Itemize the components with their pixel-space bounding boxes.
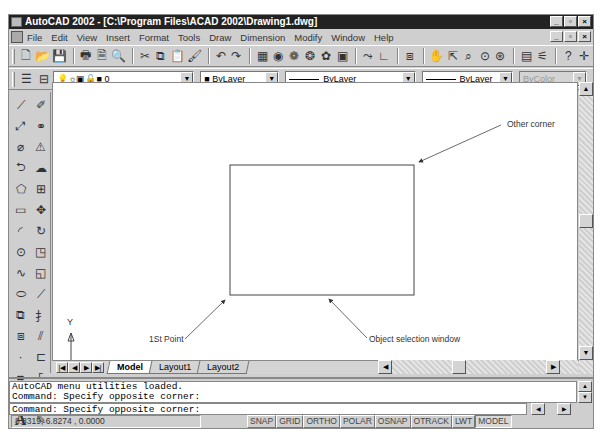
crosshair-icon[interactable]: ✛ [577,48,591,65]
array-icon[interactable]: ⊞ [32,180,49,198]
copy-icon[interactable]: ⧉ [154,48,168,65]
trim-icon[interactable]: ⺘ [32,306,49,324]
polar-toggle[interactable]: POLAR [340,415,375,428]
today-icon[interactable]: ◉ [271,48,285,65]
scroll-right-arrow-icon[interactable]: ▶ [546,360,560,374]
redraw-icon[interactable]: ∟ [377,48,391,65]
new-icon[interactable]: 🗋 [19,48,33,65]
aerial-view-icon[interactable]: ⧈ [403,48,417,65]
osnap-toggle[interactable]: OSNAP [375,415,411,428]
match-properties-icon[interactable]: 🖌 [187,48,202,65]
otrack-toggle[interactable]: OTRACK [411,415,452,428]
menu-view[interactable]: View [77,32,97,43]
lwt-toggle[interactable]: LWT [452,415,475,428]
snap-toggle[interactable]: SNAP [247,415,276,428]
stretch-icon[interactable]: ◱ [32,264,49,282]
lengthen-icon[interactable]: ⟋ [32,285,49,303]
erase-icon[interactable]: ✐ [32,96,49,114]
scale-icon[interactable]: ◳ [32,243,49,261]
save-icon[interactable]: 💾 [52,48,67,65]
design-center-icon[interactable]: ▦ [255,48,269,65]
open-icon[interactable]: 📂 [35,48,50,65]
ucs-icon[interactable]: ⤳ [361,48,375,65]
first-tab-icon[interactable]: |◀ [56,362,68,373]
scroll-up-arrow-icon[interactable]: ▲ [579,82,593,96]
ortho-toggle[interactable]: ORTHO [303,415,340,428]
doc-minimize-button[interactable]: _ [550,31,563,42]
redo-icon[interactable]: ↷ [230,48,244,65]
menu-window[interactable]: Window [331,32,365,43]
layer-manager-icon[interactable]: ☰ [19,71,34,88]
circle-icon[interactable]: ⊙ [12,243,29,261]
find-icon[interactable]: 🔍 [111,48,126,65]
make-layer-current-icon[interactable]: ⊟ [36,71,51,88]
coordinates-display[interactable]: 8.8319, 6.8274 , 0.0000 [11,415,201,428]
tab-model[interactable]: Model [107,361,154,374]
paste-icon[interactable]: 📋 [170,48,185,65]
close-button[interactable]: × [578,16,591,27]
zoom-window-icon[interactable]: ⌕ [462,48,476,65]
undo-icon[interactable]: ↶ [214,48,228,65]
menu-dimension[interactable]: Dimension [240,32,285,43]
menu-help[interactable]: Help [374,32,394,43]
rotate-icon[interactable]: ↻ [32,222,49,240]
polygon-icon[interactable]: ⮌ [12,159,29,177]
tab-layout2[interactable]: Layout2 [197,361,250,374]
menu-insert[interactable]: Insert [106,32,130,43]
cmd-scroll-down-icon[interactable]: ▼ [578,392,592,403]
toolbar-grip[interactable] [12,72,15,87]
last-tab-icon[interactable]: ▶| [92,362,104,373]
construction-line-icon[interactable]: ⤢ [12,117,29,135]
cut-icon[interactable]: ✂ [138,48,152,65]
line-icon[interactable]: ⟋ [12,96,29,114]
spline-icon[interactable]: ∿ [12,264,29,282]
web-icon[interactable]: ❁ [287,48,301,65]
insert-block-icon[interactable]: ⧉ [12,306,29,324]
arc-icon[interactable]: ◜ [12,222,29,240]
grid-toggle[interactable]: GRID [276,415,303,428]
zoom-realtime-icon[interactable]: ⇱ [446,48,460,65]
toolpalette-icon[interactable]: ▣ [335,48,349,65]
menu-tools[interactable]: Tools [178,32,200,43]
toolbar-grip[interactable] [12,49,15,64]
rectangle-icon[interactable]: ▭ [12,201,29,219]
tab-layout1[interactable]: Layout1 [149,361,202,374]
properties-icon[interactable]: ▤ [519,48,533,65]
cmd-scroll-up-icon[interactable]: ▲ [578,381,592,392]
extend-icon[interactable]: ⫽ [32,327,49,345]
print-icon[interactable]: 🖶 [79,48,93,65]
zoom-extents-icon[interactable]: ⊛ [494,48,508,65]
next-tab-icon[interactable]: ▶ [80,362,92,373]
doc-restore-button[interactable]: ▫ [564,31,577,42]
print-preview-icon[interactable]: 🗎 [95,48,109,65]
menu-draw[interactable]: Draw [209,32,231,43]
menu-format[interactable]: Format [139,32,169,43]
point-icon[interactable]: · [12,348,29,366]
break-icon[interactable]: ⊏ [32,348,49,366]
restore-button[interactable]: ▫ [564,16,577,27]
scroll-down-arrow-icon[interactable]: ▼ [579,346,593,360]
autocad-app-icon[interactable] [11,17,22,27]
move-icon[interactable]: ✥ [32,201,49,219]
prev-tab-icon[interactable]: ◀ [68,362,80,373]
scroll-left-arrow-icon[interactable]: ◀ [378,360,392,374]
menu-edit[interactable]: Edit [51,32,67,43]
polyline-icon[interactable]: ⌀ [12,138,29,156]
mirror-icon[interactable]: ⚠ [32,138,49,156]
model-toggle[interactable]: MODEL [475,415,511,428]
menu-file[interactable]: File [27,32,42,43]
vertical-scroll-thumb[interactable] [579,214,593,228]
pan-icon[interactable]: ✋ [429,48,444,65]
help-icon[interactable]: ? [561,48,575,65]
drawing-area[interactable]: Other corner 1St Point Object selection … [52,82,578,374]
document-icon[interactable] [11,31,23,43]
rectangle-icon[interactable]: ⬠ [12,180,29,198]
horizontal-scrollbar[interactable]: ◀ ▶ [378,360,578,374]
offset-icon[interactable]: ☁ [32,159,49,177]
minimize-button[interactable]: _ [550,16,563,27]
doc-close-button[interactable]: × [578,31,591,42]
adcenter-icon[interactable]: ⚟ [535,48,549,65]
copy-object-icon[interactable]: ⚭ [32,117,49,135]
vertical-scrollbar[interactable]: ▲ ▼ [579,82,593,374]
horizontal-scroll-thumb[interactable] [452,360,466,374]
